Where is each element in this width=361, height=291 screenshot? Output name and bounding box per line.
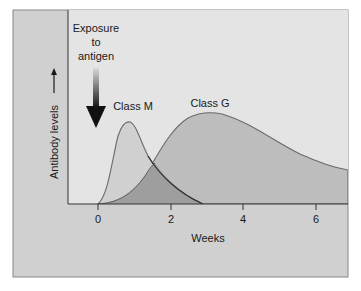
class-g-label: Class G	[190, 97, 229, 109]
x-tick-label-0: 0	[95, 213, 101, 225]
x-tick-label-2: 2	[168, 213, 174, 225]
x-tick-label-6: 6	[313, 213, 319, 225]
x-tick-label-4: 4	[240, 213, 246, 225]
x-axis-label: Weeks	[191, 232, 225, 244]
antibody-response-chart: 0 2 4 6 Weeks Antibody levels Exposure t…	[0, 0, 361, 291]
class-m-label: Class M	[113, 100, 153, 112]
y-axis-label: Antibody levels	[48, 105, 60, 179]
exposure-label-line1: Exposure	[73, 22, 119, 34]
exposure-label-line3: antigen	[78, 50, 114, 62]
exposure-label-line2: to	[91, 36, 100, 48]
